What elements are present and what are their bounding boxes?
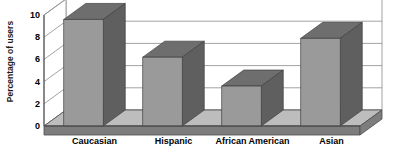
x-axis-category-label: Hispanic	[155, 136, 193, 146]
y-axis-tick-label: 10	[24, 11, 40, 20]
plot-area	[42, 0, 394, 157]
plot-svg	[42, 0, 394, 157]
bar-side-face	[103, 3, 125, 126]
bar-front-face	[222, 86, 262, 126]
x-axis-category-label: African American	[215, 136, 289, 146]
x-axis-category-labels: CaucasianHispanicAfrican AmericanAsian	[42, 136, 394, 156]
y-axis-tick-label: 8	[24, 33, 40, 42]
bar-front-face	[64, 19, 104, 126]
bar-column	[301, 22, 363, 126]
y-axis-tick-labels: 0246810	[22, 0, 40, 157]
y-axis-tick-label: 2	[24, 100, 40, 109]
bar-front-face	[301, 38, 341, 126]
bar-column	[64, 3, 126, 126]
y-axis-title: Percentage of users	[2, 0, 18, 140]
y-axis-tick-label: 6	[24, 55, 40, 64]
bar-front-face	[143, 57, 183, 126]
bar-side-face	[340, 22, 362, 126]
x-axis-category-label: Caucasian	[72, 136, 117, 146]
chart-left-wall	[44, 0, 66, 126]
bar-column	[143, 41, 205, 126]
x-axis-category-label: Asian	[319, 136, 344, 146]
chart-floor-front	[44, 126, 360, 135]
y-axis-tick-label: 0	[24, 122, 40, 131]
y-axis-tick-label: 4	[24, 78, 40, 87]
bar-chart: Percentage of users 0246810 CaucasianHis…	[0, 0, 394, 157]
